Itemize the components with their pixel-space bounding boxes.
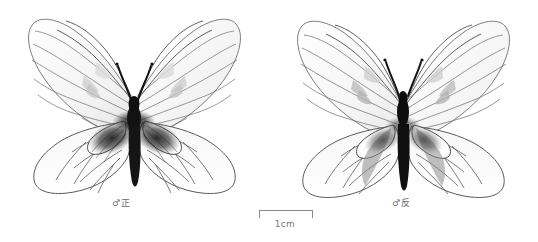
right-forewing [407,21,509,135]
body-abdomen [127,96,141,187]
left-forewing [298,21,400,135]
scale-bar-line [259,210,313,218]
body-abdomen [397,91,410,191]
caption-male-ventral: ♂反 [392,196,411,209]
specimen-male-ventral [269,0,538,200]
scale-bar: 1cm [259,210,315,240]
scale-bar-label: 1cm [259,219,311,229]
specimen-plate: ♂正 ♂反 1cm [0,0,538,242]
specimen-male-dorsal [0,0,269,200]
caption-male-dorsal: ♂正 [112,196,131,209]
